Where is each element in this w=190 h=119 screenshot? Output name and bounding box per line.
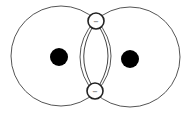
top-electron-sign: − [93, 18, 99, 26]
bond-overlap-region [84, 28, 108, 84]
bottom-electron-sign: − [92, 88, 98, 96]
covalent-bond-diagram: − − [0, 0, 190, 119]
bottom-electron: − [87, 83, 103, 99]
top-electron: − [88, 13, 104, 29]
right-nucleus [121, 50, 139, 68]
left-nucleus [50, 48, 68, 66]
